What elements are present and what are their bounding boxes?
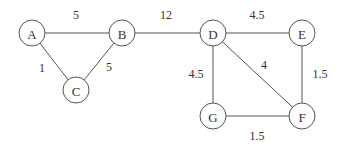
node-label: B xyxy=(118,27,127,42)
graph-diagram: 515124.54.541.51.5 ABCDEFG xyxy=(0,0,343,148)
node-g: G xyxy=(200,103,226,129)
edge-weight-a-c: 1 xyxy=(39,61,45,75)
node-label: C xyxy=(72,84,81,99)
node-b: B xyxy=(109,20,135,46)
edge-weight-a-b: 5 xyxy=(73,8,79,22)
node-label: F xyxy=(298,110,305,125)
node-label: E xyxy=(298,27,306,42)
edge-weight-e-f: 1.5 xyxy=(313,67,328,81)
edge-weight-d-e: 4.5 xyxy=(250,8,265,22)
edge-weight-b-d: 12 xyxy=(160,8,172,22)
node-f: F xyxy=(289,103,315,129)
node-label: G xyxy=(208,110,217,125)
node-d: D xyxy=(200,20,226,46)
edge-d-f xyxy=(213,33,302,116)
node-e: E xyxy=(289,20,315,46)
node-c: C xyxy=(63,77,89,103)
nodes-layer: ABCDEFG xyxy=(19,20,315,129)
edge-weight-d-f: 4 xyxy=(261,58,267,72)
node-a: A xyxy=(19,20,45,46)
edge-weight-d-g: 4.5 xyxy=(189,67,204,81)
node-label: A xyxy=(27,27,37,42)
edges-layer xyxy=(32,33,302,116)
edge-weight-g-f: 1.5 xyxy=(250,129,265,143)
edge-weight-b-c: 5 xyxy=(106,60,112,74)
edge-weights-layer: 515124.54.541.51.5 xyxy=(39,8,328,143)
node-label: D xyxy=(208,27,217,42)
